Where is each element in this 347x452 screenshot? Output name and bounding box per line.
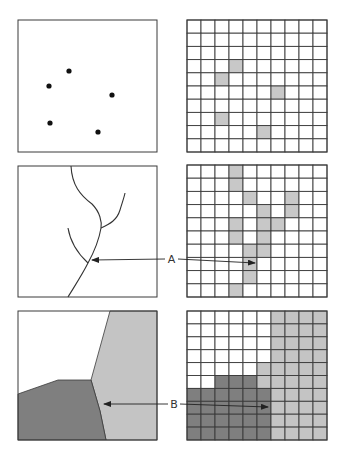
raster-cell xyxy=(243,73,257,86)
raster-cell xyxy=(201,414,215,427)
raster-cell xyxy=(215,401,229,414)
raster-cell xyxy=(201,257,215,270)
raster-cell xyxy=(187,388,201,401)
raster-cell xyxy=(257,231,271,244)
raster-cell xyxy=(229,401,243,414)
raster-cell xyxy=(229,191,243,204)
raster-cell xyxy=(187,218,201,231)
raster-cell xyxy=(243,401,257,414)
raster-cell xyxy=(313,284,327,297)
panel-frame xyxy=(18,20,157,152)
raster-cell xyxy=(215,244,229,257)
raster-cell xyxy=(243,60,257,73)
raster-cell xyxy=(285,284,299,297)
point-feature xyxy=(66,68,71,73)
raster-cell xyxy=(299,73,313,86)
raster-cell xyxy=(215,86,229,99)
raster-cell xyxy=(285,244,299,257)
raster-cell xyxy=(271,401,285,414)
raster-cell xyxy=(299,388,313,401)
raster-cell xyxy=(285,112,299,125)
raster-cell xyxy=(187,244,201,257)
raster-cell xyxy=(229,178,243,191)
raster-cell xyxy=(285,46,299,59)
raster-cell xyxy=(257,86,271,99)
raster-cell xyxy=(313,205,327,218)
raster-cell xyxy=(243,414,257,427)
raster-cell xyxy=(271,231,285,244)
raster-cell xyxy=(299,427,313,440)
raster-cell xyxy=(257,165,271,178)
raster-cell xyxy=(313,401,327,414)
raster-cell xyxy=(215,20,229,33)
raster-cell xyxy=(229,244,243,257)
raster-cell xyxy=(313,337,327,350)
raster-cell xyxy=(257,191,271,204)
raster-cell xyxy=(201,337,215,350)
raster-cell xyxy=(243,126,257,139)
raster-cell xyxy=(285,324,299,337)
raster-cell xyxy=(229,324,243,337)
raster-cell xyxy=(299,20,313,33)
raster-cell xyxy=(299,401,313,414)
raster-cell xyxy=(257,60,271,73)
raster-cell xyxy=(201,126,215,139)
raster-cell xyxy=(215,427,229,440)
raster-cell xyxy=(257,205,271,218)
raster-cell xyxy=(271,311,285,324)
point-feature xyxy=(109,92,114,97)
raster-cell xyxy=(201,205,215,218)
raster-cell xyxy=(215,205,229,218)
raster-cell xyxy=(299,363,313,376)
raster-cell xyxy=(187,126,201,139)
raster-cell xyxy=(285,337,299,350)
raster-cell xyxy=(187,427,201,440)
raster-cell xyxy=(243,311,257,324)
raster-cell xyxy=(243,337,257,350)
raster-cell xyxy=(215,271,229,284)
raster-cell xyxy=(313,388,327,401)
raster-cell xyxy=(313,178,327,191)
raster-cell xyxy=(299,178,313,191)
raster-cell xyxy=(285,427,299,440)
raster-cell xyxy=(271,46,285,59)
raster-cell xyxy=(243,350,257,363)
raster-cell xyxy=(313,414,327,427)
raster-cell xyxy=(201,363,215,376)
raster-cell xyxy=(313,311,327,324)
raster-cell xyxy=(243,191,257,204)
raster-cell xyxy=(201,139,215,152)
raster-cell xyxy=(243,205,257,218)
raster-cell xyxy=(299,46,313,59)
raster-cell xyxy=(257,244,271,257)
raster-cell xyxy=(243,178,257,191)
raster-cell xyxy=(271,218,285,231)
raster-cell xyxy=(187,99,201,112)
raster-cell xyxy=(215,414,229,427)
raster-cell xyxy=(187,401,201,414)
point-feature xyxy=(47,120,52,125)
raster-cell xyxy=(257,20,271,33)
raster-polygons-grid xyxy=(187,311,327,440)
raster-cell xyxy=(313,271,327,284)
raster-cell xyxy=(215,388,229,401)
raster-cell xyxy=(215,99,229,112)
raster-cell xyxy=(187,324,201,337)
raster-cell xyxy=(313,218,327,231)
raster-cell xyxy=(285,60,299,73)
raster-cell xyxy=(201,46,215,59)
raster-cell xyxy=(243,257,257,270)
raster-cell xyxy=(271,112,285,125)
raster-cell xyxy=(257,218,271,231)
raster-cell xyxy=(313,99,327,112)
raster-cell xyxy=(257,178,271,191)
raster-cell xyxy=(257,284,271,297)
raster-points-grid xyxy=(187,20,327,152)
raster-cell xyxy=(229,60,243,73)
raster-cell xyxy=(257,33,271,46)
raster-cell xyxy=(313,20,327,33)
raster-cell xyxy=(215,126,229,139)
raster-cell xyxy=(215,191,229,204)
raster-cell xyxy=(201,324,215,337)
raster-cell xyxy=(243,112,257,125)
